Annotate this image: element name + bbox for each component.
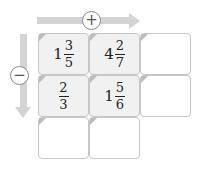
mixed-number: 1 35 [53, 39, 74, 70]
grid-cell-r3-c2-empty[interactable] [89, 117, 140, 159]
corner-marker-icon [90, 76, 97, 83]
corner-marker-icon [90, 34, 97, 41]
corner-marker-icon [141, 76, 148, 83]
corner-marker-icon [39, 118, 46, 125]
minus-circle-icon: − [10, 66, 29, 85]
arrow-down-icon [15, 107, 31, 118]
plus-circle-icon: + [82, 11, 101, 30]
mixed-number: 4 27 [104, 39, 125, 70]
grid-cell-r1-c2: 4 27 [89, 33, 140, 75]
corner-marker-icon [39, 76, 46, 83]
grid-cell-r2-c3-empty[interactable] [140, 75, 191, 117]
fraction: 23 [59, 81, 69, 112]
mixed-number: 1 56 [104, 81, 125, 112]
corner-marker-icon [141, 34, 148, 41]
grid-cell-r3-c1-empty[interactable] [38, 117, 89, 159]
grid-cell-r1-c1: 1 35 [38, 33, 89, 75]
corner-marker-icon [39, 34, 46, 41]
grid-cell-r2-c1: 23 [38, 75, 89, 117]
grid-cell-r2-c2: 1 56 [89, 75, 140, 117]
grid-cell-r1-c3-empty[interactable] [140, 33, 191, 75]
arrow-right-icon [129, 13, 140, 29]
corner-marker-icon [90, 118, 97, 125]
